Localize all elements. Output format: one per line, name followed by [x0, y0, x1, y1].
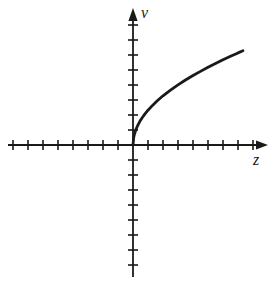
- y-axis-arrow-icon: [128, 8, 137, 21]
- coordinate-plot: [0, 0, 275, 281]
- y-axis-label: v: [141, 5, 148, 21]
- data-curve: [133, 51, 243, 145]
- x-axis-label: z: [253, 152, 259, 168]
- figure-container: v z: [0, 0, 275, 281]
- x-axis-arrow-icon: [256, 140, 268, 149]
